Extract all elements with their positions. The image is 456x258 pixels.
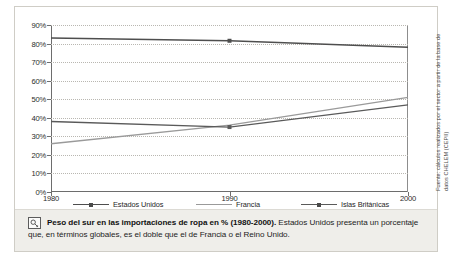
y-tick-label: 50% [31, 95, 46, 104]
y-tick-label: 20% [31, 150, 46, 159]
legend-swatch-line [301, 204, 337, 205]
y-tick-label: 80% [31, 39, 46, 48]
legend-swatch-marker [317, 203, 321, 207]
legend-swatch-line [73, 204, 109, 205]
source-note: Fuente: cálculos realizados por el secto… [434, 23, 450, 191]
series-line [51, 105, 408, 127]
figure-container: 0%10%20%30%40%50%60%70%80%90% 1980199020… [14, 6, 438, 252]
legend-entry-2[interactable]: Francia [196, 200, 260, 209]
caption-text: Peso del sur en las importaciones de rop… [28, 217, 427, 242]
legend-label: Islas Británicas [341, 200, 389, 209]
y-tick-label: 30% [31, 132, 46, 141]
caption-bold: Peso del sur en las importaciones de rop… [47, 218, 276, 227]
legend-label: Francia [236, 200, 260, 209]
series-marker [228, 125, 232, 129]
y-tick-label: 60% [31, 76, 46, 85]
y-tick-label: 10% [31, 169, 46, 178]
series-lines [51, 25, 408, 192]
plot-area: 0%10%20%30%40%50%60%70%80%90% 1980199020… [51, 25, 408, 192]
series-line [51, 97, 408, 143]
legend-entry-1[interactable]: Estados Unidos [73, 200, 163, 209]
caption-bar: Peso del sur en las importaciones de rop… [15, 209, 437, 251]
legend-swatch-line [196, 204, 232, 205]
series-marker [228, 39, 232, 43]
magnifier-key-icon [28, 217, 41, 229]
legend-label: Estados Unidos [113, 200, 163, 209]
y-tick-label: 40% [31, 113, 46, 122]
chart-legend: Estados UnidosFranciaIslas Británicas [51, 197, 408, 209]
chart-plate: 0%10%20%30%40%50%60%70%80%90% 1980199020… [15, 7, 437, 209]
legend-entry-3[interactable]: Islas Británicas [301, 200, 389, 209]
legend-swatch-marker [89, 203, 93, 207]
y-tick-label: 90% [31, 21, 46, 30]
y-tick-label: 70% [31, 58, 46, 67]
